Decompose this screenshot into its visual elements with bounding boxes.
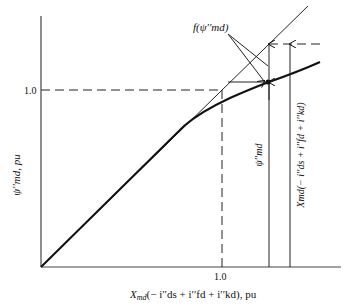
- f-pointer-line-2: [228, 34, 264, 81]
- saturation-diagram: f(ψ′′md) 1.0 1.0 ψ′′md, pu ψ′′md Xmd(− i…: [0, 0, 349, 307]
- x-product-vertical-label: Xmd(− i′′ds + i′′fd + i′′kd): [295, 102, 307, 209]
- psi-vertical-label: ψ′′md: [253, 143, 264, 167]
- operating-point: [266, 80, 271, 85]
- diagram-canvas: f(ψ′′md) 1.0 1.0 ψ′′md, pu ψ′′md Xmd(− i…: [0, 0, 349, 307]
- x-axis-label: Xmd(− i′′ds + i′′fd + i′′kd), pu: [129, 288, 257, 302]
- f-pointer-line-1: [228, 34, 268, 66]
- x-tick-label: 1.0: [214, 271, 227, 282]
- f-psi-label: f(ψ′′md): [193, 21, 229, 34]
- y-axis-label: ψ′′md, pu: [10, 154, 22, 196]
- y-tick-label: 1.0: [24, 85, 37, 96]
- x-axis-label-rest: (− i′′ds + i′′fd + i′′kd), pu: [147, 288, 257, 301]
- saturation-curve: [41, 62, 320, 267]
